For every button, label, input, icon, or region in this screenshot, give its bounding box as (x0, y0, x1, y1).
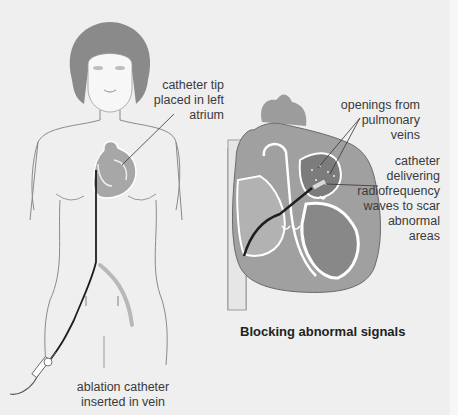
label-ablation-catheter: ablation catheter inserted in vein (48, 380, 198, 410)
label-catheter-rf: catheter delivering radiofrequency waves… (330, 154, 440, 244)
label-pulmonary-openings: openings from pulmonary veins (300, 98, 420, 143)
label-catheter-tip: catheter tip placed in left atrium (110, 78, 224, 123)
figure-title: Blocking abnormal signals (240, 324, 405, 339)
